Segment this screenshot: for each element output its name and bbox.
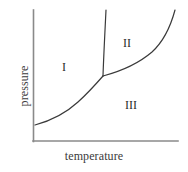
y-axis-label: pressure — [16, 0, 32, 172]
sublimation-curve — [35, 76, 103, 125]
vaporization-curve — [103, 10, 175, 76]
region-label-1: I — [62, 61, 66, 73]
fusion-curve — [103, 10, 106, 76]
region-label-2: II — [123, 37, 131, 49]
x-axis-label: temperature — [0, 149, 188, 164]
phase-diagram-figure: pressure temperature I II III — [0, 0, 188, 172]
region-label-3: III — [125, 99, 137, 111]
